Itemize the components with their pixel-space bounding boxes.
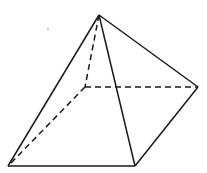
hidden-edges bbox=[8, 15, 198, 166]
pyramid-diagram bbox=[0, 0, 207, 173]
hidden-edge-back_left_hidden-front_left bbox=[8, 87, 85, 166]
speck-dot bbox=[47, 28, 49, 30]
edge-apex-front_left bbox=[8, 15, 99, 166]
edge-front_right-back_right bbox=[135, 87, 198, 166]
visible-edges bbox=[8, 15, 198, 166]
